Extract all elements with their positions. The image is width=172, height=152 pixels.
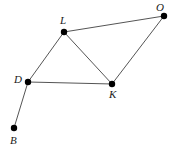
vertex-point-b (11, 125, 17, 131)
graph-canvas (0, 0, 172, 152)
vertex-label-l: L (60, 15, 66, 26)
vertex-point-l (61, 29, 67, 35)
edge-d-b (14, 82, 28, 128)
vertex-label-b: B (10, 135, 17, 146)
edge-d-k (28, 82, 112, 84)
vertex-point-k (109, 81, 115, 87)
vertex-point-d (25, 79, 31, 85)
edge-l-o (64, 16, 164, 32)
geometry-figure: OLDKB (0, 0, 172, 152)
edge-k-o (112, 16, 164, 84)
vertex-point-o (161, 13, 167, 19)
vertex-layer (11, 13, 167, 131)
edge-l-d (28, 32, 64, 82)
vertex-label-d: D (14, 74, 22, 85)
edge-l-k (64, 32, 112, 84)
vertex-label-o: O (156, 2, 164, 13)
vertex-label-k: K (109, 89, 116, 100)
edge-layer (14, 16, 164, 128)
